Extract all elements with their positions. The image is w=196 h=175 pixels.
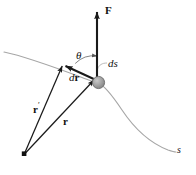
theta-label: θ	[76, 50, 81, 61]
path-label: s	[177, 145, 181, 155]
path-curve-s	[4, 52, 176, 152]
ds-leader-line	[98, 63, 108, 69]
force-label: F	[105, 5, 112, 16]
position-vector-r	[25, 80, 94, 154]
diagram-canvas	[0, 0, 196, 175]
vector-diagram-figure: F θ ds dr r′ r s	[0, 0, 196, 175]
origin-point-marker	[22, 151, 27, 156]
position-label: r	[63, 116, 68, 127]
position-prime-label: r′	[33, 102, 40, 115]
arc-element-label: ds	[108, 58, 118, 69]
position-vector-r-prime	[25, 66, 63, 154]
displacement-r-part: r	[75, 71, 80, 83]
particle-node	[92, 76, 104, 88]
displacement-label: dr	[69, 72, 79, 83]
prime-mark: ′	[38, 101, 40, 110]
